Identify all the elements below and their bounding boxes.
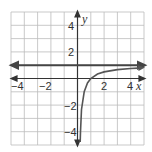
x-tick-neg2: −2	[39, 80, 52, 92]
axes	[11, 11, 145, 146]
y-axis-label: y	[81, 12, 88, 26]
x-tick-neg4: −4	[11, 80, 24, 92]
x-tick-2: 2	[101, 80, 107, 92]
y-tick-4: 4	[68, 20, 74, 32]
graph: −4 −2 2 4 x 4 2 −2 −4 y	[0, 0, 152, 152]
y-tick-neg2: −2	[64, 100, 77, 112]
y-tick-2: 2	[68, 46, 74, 58]
x-tick-4: 4	[127, 80, 133, 92]
x-axis-label: x	[135, 79, 142, 93]
y-tick-neg4: −4	[64, 126, 77, 138]
